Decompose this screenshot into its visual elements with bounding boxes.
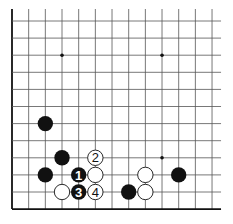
white-stone-move-4: 4	[88, 184, 103, 199]
stone-disc	[54, 184, 69, 199]
stone-disc	[88, 167, 103, 182]
stone-disc	[38, 167, 53, 182]
move-number-label: 1	[75, 168, 82, 183]
white-stone	[138, 184, 153, 199]
stone-disc	[138, 184, 153, 199]
black-stone	[121, 184, 136, 199]
star-point	[60, 53, 64, 57]
stone-disc	[171, 167, 186, 182]
move-number-label: 3	[75, 185, 82, 200]
stone-disc	[138, 167, 153, 182]
stone-disc	[121, 184, 136, 199]
black-stone	[54, 150, 69, 165]
black-stone	[38, 167, 53, 182]
star-point	[160, 156, 164, 160]
stone-disc	[38, 116, 53, 131]
move-number-label: 4	[92, 185, 99, 200]
white-stone-move-2: 2	[88, 150, 103, 165]
stone-disc	[54, 150, 69, 165]
black-stone	[171, 167, 186, 182]
white-stone	[54, 184, 69, 199]
move-number-label: 2	[92, 150, 99, 165]
star-point	[160, 53, 164, 57]
white-stone	[88, 167, 103, 182]
white-stone	[138, 167, 153, 182]
black-stone	[38, 116, 53, 131]
black-stone-move-1: 1	[71, 167, 86, 182]
go-board: 1324	[0, 0, 233, 224]
black-stone-move-3: 3	[71, 184, 86, 199]
go-board-svg: 1324	[0, 0, 233, 224]
